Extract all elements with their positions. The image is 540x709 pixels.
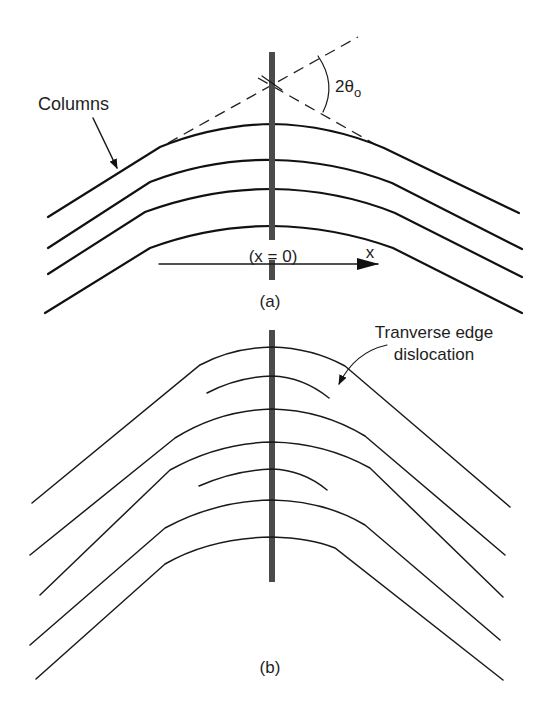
figure-a: Columns 2θo (x = 0) x (a) bbox=[38, 37, 522, 313]
figure-b: Tranverse edge dislocation (b) bbox=[30, 323, 510, 680]
origin-label: (x = 0) bbox=[249, 247, 298, 266]
angle-label: 2θo bbox=[335, 77, 361, 100]
column-line-4 bbox=[45, 226, 522, 313]
figure-canvas: Columns 2θo (x = 0) x (a) Tranverse edge… bbox=[0, 0, 540, 709]
lattice-line-4 bbox=[30, 500, 500, 645]
dislocation-label-line1: Tranverse edge bbox=[375, 323, 493, 342]
boundary-bar-a bbox=[269, 52, 275, 240]
dislocation-label-line2: dislocation bbox=[394, 345, 474, 364]
x-axis-label: x bbox=[366, 243, 375, 262]
figure-a-caption: (a) bbox=[260, 292, 281, 311]
angle-label-subscript: o bbox=[354, 85, 361, 100]
angle-arc bbox=[318, 56, 329, 112]
figure-b-caption: (b) bbox=[260, 658, 281, 677]
angle-label-main: 2θ bbox=[335, 77, 354, 96]
columns-pointer-arrow bbox=[93, 118, 117, 168]
lattice-line-2 bbox=[30, 409, 505, 555]
boundary-bar-b bbox=[269, 330, 275, 582]
columns-label: Columns bbox=[38, 94, 109, 114]
dislocation-half-line-1 bbox=[207, 376, 329, 398]
dislocation-half-line-2 bbox=[199, 469, 327, 490]
dislocation-pointer-arrow bbox=[339, 345, 387, 384]
